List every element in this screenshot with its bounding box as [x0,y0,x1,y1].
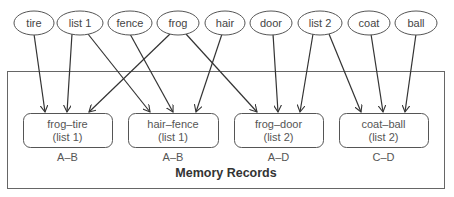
cue-label: ball [407,17,424,29]
cue-links [34,34,416,112]
link-arrow-frog-to-frog-tire [89,34,170,112]
link-arrow-tire-to-frog-tire [34,34,45,112]
record-list-label: (list 1) [158,131,188,143]
cue-node-ball: ball [395,11,437,35]
record-pair-label: frog–tire [47,118,87,130]
cue-node-fence: fence [108,11,152,35]
record-list-label: (list 2) [264,131,294,143]
cue-node-frog: frog [157,11,199,35]
cue-node-list2: list 2 [298,11,342,35]
link-arrow-ball-to-coat-ball [405,34,416,112]
link-arrow-list1-to-hair-fence [88,34,150,112]
cue-nodes: tirelist 1fencefroghairdoorlist 2coatbal… [14,11,437,35]
record-hair-fence: hair–fence(list 1)A–B [129,114,219,164]
cue-node-door: door [250,11,292,35]
record-list-label: (list 2) [369,131,399,143]
record-condition-label: A–B [57,151,78,163]
cue-node-tire: tire [14,11,54,35]
record-boxes: frog–tire(list 1)A–Bhair–fence(list 1)A–… [24,114,429,164]
link-arrow-coat-to-coat-ball [371,34,383,112]
cue-label: fence [117,17,144,29]
cue-label: list 2 [309,17,332,29]
record-frog-door: frog–door(list 2)A–D [235,114,324,164]
cue-label: coat [359,17,380,29]
record-list-label: (list 1) [53,131,83,143]
memory-records-diagram: tirelist 1fencefroghairdoorlist 2coatbal… [0,0,454,197]
container-title: Memory Records [175,166,276,180]
record-pair-label: frog–door [255,118,302,130]
link-arrow-list1-to-frog-tire [67,34,72,112]
link-arrow-fence-to-hair-fence [130,34,173,112]
cue-label: frog [169,17,188,29]
cue-label: list 1 [69,17,92,29]
record-condition-label: A–D [268,151,289,163]
cue-node-list1: list 1 [57,11,103,35]
record-pair-label: coat–ball [361,118,405,130]
cue-label: tire [26,17,41,29]
cue-label: door [260,17,282,29]
link-arrow-door-to-frog-door [273,34,278,112]
link-arrow-list2-to-frog-door [300,34,313,112]
link-arrow-hair-to-hair-fence [196,34,222,112]
cue-node-hair: hair [205,11,245,35]
cue-label: hair [216,17,235,29]
cue-node-coat: coat [348,11,390,35]
link-arrow-list2-to-coat-ball [329,34,361,112]
record-condition-label: C–D [372,151,394,163]
record-frog-tire: frog–tire(list 1)A–B [24,114,113,164]
record-coat-ball: coat–ball(list 2)C–D [340,114,429,164]
record-pair-label: hair–fence [147,118,198,130]
link-arrow-frog-to-frog-door [186,34,257,112]
record-condition-label: A–B [163,151,184,163]
